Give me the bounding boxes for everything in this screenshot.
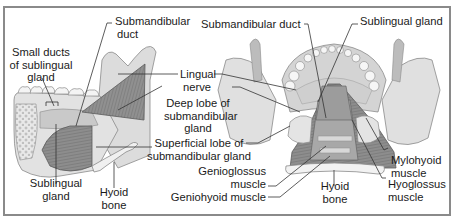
label-line: bone	[96, 199, 132, 212]
label-hyoglossus: Hyoglossus muscle	[388, 178, 446, 203]
tendon-band-1	[318, 136, 352, 141]
label-line: gland	[28, 190, 84, 203]
label-line: Lingual	[180, 68, 214, 81]
label-mylohyoid: Mylohyoid muscle	[391, 154, 441, 179]
label-line: gland	[164, 122, 232, 135]
label-line: Mylohyoid	[391, 154, 441, 167]
label-line: nerve	[180, 81, 214, 94]
ramus-right	[382, 58, 440, 145]
label-submandibular-duct-left: Submandibular duct	[115, 15, 190, 40]
label-line: Small ducts	[8, 46, 74, 59]
label-line: Hyoglossus	[388, 178, 446, 191]
label-deep-lobe: Deep lobe of submandibular gland	[164, 97, 232, 135]
hyoid-bone-posterior	[286, 163, 385, 174]
submandibular-gland-left	[288, 116, 312, 143]
label-line: Hyoid	[96, 186, 132, 199]
tendon-band-2	[320, 148, 350, 153]
submandibular-gland-right	[356, 116, 380, 143]
label-line: bone	[318, 193, 352, 206]
label-genioglossus: Genioglossus muscle	[196, 165, 266, 190]
label-line: Sublingual	[28, 177, 84, 190]
label-hyoid-bone-right: Hyoid bone	[318, 180, 352, 205]
label-line: of sublingual	[8, 59, 74, 72]
label-sublingual-gland-right: Sublingual gland	[360, 15, 443, 28]
label-line: muscle	[388, 191, 446, 204]
label-line: Submandibular	[115, 15, 190, 28]
label-line: duct	[115, 28, 190, 41]
label-line: muscle	[196, 178, 266, 191]
label-line: Superficial lobe of	[146, 137, 252, 150]
label-line: Deep lobe of	[164, 97, 232, 110]
label-line: gland	[8, 71, 74, 84]
label-small-ducts: Small ducts of sublingual gland	[8, 46, 74, 84]
label-line: Hyoid	[318, 180, 352, 193]
tongue-base	[316, 86, 352, 120]
label-line: submandibular	[164, 110, 232, 123]
label-submandibular-duct-right: Submandibular duct	[201, 18, 301, 31]
label-lingual-nerve: Lingual nerve	[180, 68, 214, 93]
label-superficial-lobe: Superficial lobe of submandibular gland	[146, 137, 252, 162]
label-geniohyoid: Geniohyoid muscle	[166, 191, 266, 204]
label-line: submandibular gland	[146, 150, 252, 163]
label-line: Genioglossus	[196, 165, 266, 178]
label-hyoid-bone-left: Hyoid bone	[96, 186, 132, 211]
label-sublingual-gland-left: Sublingual gland	[28, 177, 84, 202]
